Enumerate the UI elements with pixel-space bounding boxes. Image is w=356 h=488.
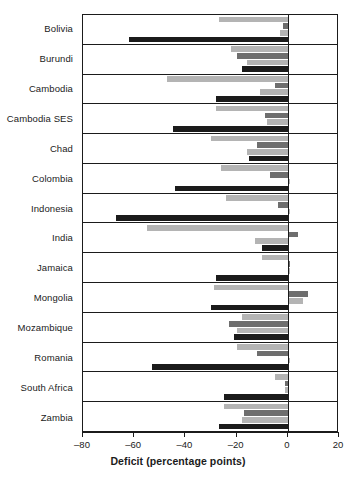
- bar: [231, 46, 287, 52]
- bar-group-bars: [83, 372, 337, 401]
- bar-slot: [83, 274, 337, 281]
- bar-slot: [83, 155, 337, 162]
- x-axis-tick-label: –60: [125, 439, 141, 450]
- bar: [280, 30, 288, 36]
- bar-slot: [83, 284, 337, 291]
- bar: [237, 328, 288, 334]
- deficit-bar-chart: BoliviaBurundiCambodiaCambodia SESChadCo…: [0, 0, 356, 488]
- bar: [221, 165, 288, 171]
- bar: [173, 126, 288, 132]
- category-label: Bolivia: [0, 14, 78, 44]
- bar: [275, 374, 288, 380]
- bar: [262, 255, 288, 261]
- bar-slot: [83, 96, 337, 103]
- bar-slot: [83, 178, 337, 185]
- bar-group: [83, 313, 337, 343]
- bar: [129, 37, 288, 43]
- bar-group: [83, 372, 337, 402]
- bar-slot: [83, 254, 337, 261]
- bar-slot: [83, 23, 337, 30]
- bar-slot: [83, 304, 337, 311]
- bar-group: [83, 223, 337, 253]
- bar-slot: [83, 364, 337, 371]
- bar-slot: [83, 165, 337, 172]
- bar-rows: [83, 15, 337, 431]
- bar-slot: [83, 380, 337, 387]
- bar-slot: [83, 314, 337, 321]
- x-axis-tick: [236, 432, 237, 437]
- bar-slot: [83, 321, 337, 328]
- bar: [278, 202, 288, 208]
- bar: [211, 305, 288, 311]
- category-label: Romania: [0, 342, 78, 372]
- category-label: Colombia: [0, 163, 78, 193]
- bar-slot: [83, 112, 337, 119]
- category-label: Chad: [0, 133, 78, 163]
- bar-slot: [83, 224, 337, 231]
- bar-group-bars: [83, 75, 337, 104]
- bar-slot: [83, 29, 337, 36]
- category-label: Jamaica: [0, 253, 78, 283]
- category-label: India: [0, 223, 78, 253]
- bar-slot: [83, 36, 337, 43]
- bar: [257, 142, 288, 148]
- bar-slot: [83, 291, 337, 298]
- bar-slot: [83, 387, 337, 394]
- x-axis-tick-label: 0: [284, 439, 289, 450]
- bar-group: [83, 104, 337, 134]
- bar: [242, 66, 288, 72]
- bar-slot: [83, 357, 337, 364]
- bar-slot: [83, 297, 337, 304]
- bar-group-bars: [83, 283, 337, 312]
- bar: [249, 156, 287, 162]
- bar-slot: [83, 149, 337, 156]
- bar: [229, 321, 288, 327]
- x-axis: –80–60–40–20020: [82, 432, 338, 433]
- bar-slot: [83, 344, 337, 351]
- bar: [262, 245, 288, 251]
- bar-group-bars: [83, 343, 337, 372]
- category-label: Indonesia: [0, 193, 78, 223]
- bar-group-bars: [83, 134, 337, 163]
- zero-reference-line: [288, 15, 289, 431]
- bar-slot: [83, 245, 337, 252]
- bar-group-bars: [83, 223, 337, 252]
- bar-slot: [83, 66, 337, 73]
- bar-group-bars: [83, 253, 337, 282]
- bar: [267, 119, 287, 125]
- bar: [288, 232, 298, 238]
- bar-slot: [83, 410, 337, 417]
- bar: [247, 149, 288, 155]
- x-axis-tick-label: –80: [74, 439, 90, 450]
- bar-slot: [83, 201, 337, 208]
- bar-slot: [83, 350, 337, 357]
- bar: [219, 424, 288, 430]
- bar-slot: [83, 238, 337, 245]
- category-label: Cambodia SES: [0, 104, 78, 134]
- bar-slot: [83, 76, 337, 83]
- bar-group-bars: [83, 402, 337, 431]
- bar-slot: [83, 52, 337, 59]
- bar-group-bars: [83, 194, 337, 223]
- bar: [242, 417, 288, 423]
- bar: [216, 275, 288, 281]
- bar-slot: [83, 135, 337, 142]
- x-axis-tick: [287, 432, 288, 437]
- x-axis-tick: [133, 432, 134, 437]
- bar-slot: [83, 125, 337, 132]
- bar: [226, 195, 287, 201]
- bar: [175, 186, 288, 192]
- bar: [255, 238, 288, 244]
- bar-group: [83, 253, 337, 283]
- bar-slot: [83, 185, 337, 192]
- bar: [224, 404, 288, 410]
- bar: [260, 89, 288, 95]
- bar-slot: [83, 142, 337, 149]
- bar: [257, 351, 288, 357]
- bar: [216, 106, 288, 112]
- x-axis-tick-label: 20: [333, 439, 344, 450]
- x-axis-tick-label: –40: [176, 439, 192, 450]
- bar: [242, 314, 288, 320]
- bar-group: [83, 15, 337, 45]
- x-axis-tick: [338, 432, 339, 437]
